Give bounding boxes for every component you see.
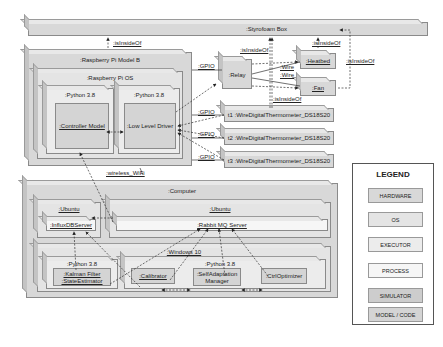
edge-label-wire-heatbed: :Wire bbox=[280, 64, 294, 70]
edge-label-heatbed-inside: :isInsideOf bbox=[312, 40, 340, 46]
legend-os: OS bbox=[368, 212, 423, 227]
legend-title: LEGEND bbox=[353, 170, 433, 179]
edge-label-rpi-inside: :isInsideOf bbox=[113, 40, 141, 46]
edge-label-fan-inside: :isInsideOf bbox=[346, 58, 374, 64]
edge-label-gpio-t3: :GPIO bbox=[198, 154, 215, 160]
edge-label-gpio-t2: :GPIO bbox=[198, 131, 215, 137]
legend-simulator: SIMULATOR bbox=[368, 288, 423, 303]
edge-label-relay-inside: :isInsideOf bbox=[240, 47, 268, 53]
edge-label-gpio-relay: :GPIO bbox=[198, 63, 215, 69]
edge-label-wire-fan: :Wire bbox=[280, 72, 294, 78]
legend-process: PROCESS bbox=[368, 263, 423, 278]
legend-executor: EXECUTOR bbox=[368, 237, 423, 252]
edge-label-gpio-t1: :GPIO bbox=[198, 109, 215, 115]
legend-hardware: HARDWARE bbox=[368, 188, 423, 203]
edge-label-thermo-inside: :isInsideOf bbox=[273, 96, 301, 102]
legend-model-code: MODEL / CODE bbox=[368, 307, 423, 322]
legend: LEGEND HARDWARE OS EXECUTOR PROCESS SIMU… bbox=[352, 163, 434, 325]
edge-label-wireless: :wireless_WiFi bbox=[106, 170, 145, 176]
